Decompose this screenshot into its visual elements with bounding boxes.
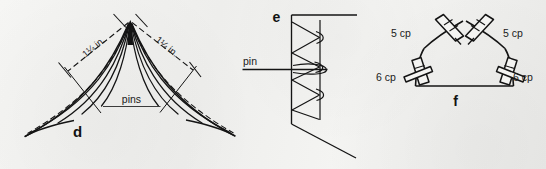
figure-illustration: 1¼ in. 1¼ in. pins d <box>0 0 546 169</box>
panel-letter-e: e <box>273 9 281 25</box>
fan-thread <box>132 24 230 133</box>
strand-lower-tail <box>292 124 357 158</box>
panel-letter-d: d <box>73 123 82 140</box>
panel-e: pin e <box>243 9 358 158</box>
dimension-tick-outer-right <box>190 62 202 77</box>
coil-winding <box>292 80 320 110</box>
coil-winding <box>292 110 320 120</box>
clip-label-top-left: 5 cp <box>391 27 411 39</box>
panel-letter-f: f <box>453 93 458 109</box>
pins-label: pins <box>122 93 141 105</box>
clothespin-bottom-left <box>404 58 433 86</box>
panel-f: 5 cp 5 cp 6 cp 6 cp f <box>376 15 533 110</box>
fan-thread <box>30 24 129 133</box>
fan-threads-left <box>25 24 130 137</box>
clip-label-top-right: 5 cp <box>503 27 523 39</box>
dimension-label-left: 1¼ in. <box>80 34 107 59</box>
panel-d: 1¼ in. 1¼ in. pins d <box>25 14 235 140</box>
pin-label: pin <box>243 55 257 67</box>
fan-thread-outer-edge <box>25 25 128 137</box>
coil-zigzag-windings <box>292 22 320 120</box>
fan-envelope-dashed-left <box>28 24 130 134</box>
fan-threads-right <box>131 24 236 136</box>
clip-jaw <box>466 15 494 42</box>
clip-label-bottom-right: 6 cp <box>513 71 533 83</box>
fan-envelope-dashed-right <box>132 24 234 133</box>
dimension-tick-apex-right <box>136 14 148 27</box>
clip-jaw <box>436 15 464 42</box>
fan-tip-right <box>186 120 235 136</box>
clothespin-apex-right <box>466 15 494 42</box>
pentagon-frame <box>416 21 514 86</box>
clip-label-bottom-left: 6 cp <box>376 71 396 83</box>
clothespin-apex-left <box>436 15 464 42</box>
coil-winding <box>292 22 320 53</box>
dimension-tick-apex-left <box>114 14 127 28</box>
dimension-label-right: 1¼ in. <box>154 34 181 59</box>
fan-thread-outer-edge <box>132 25 235 137</box>
fan-tip-left <box>25 121 74 137</box>
coil-winding <box>292 53 320 80</box>
